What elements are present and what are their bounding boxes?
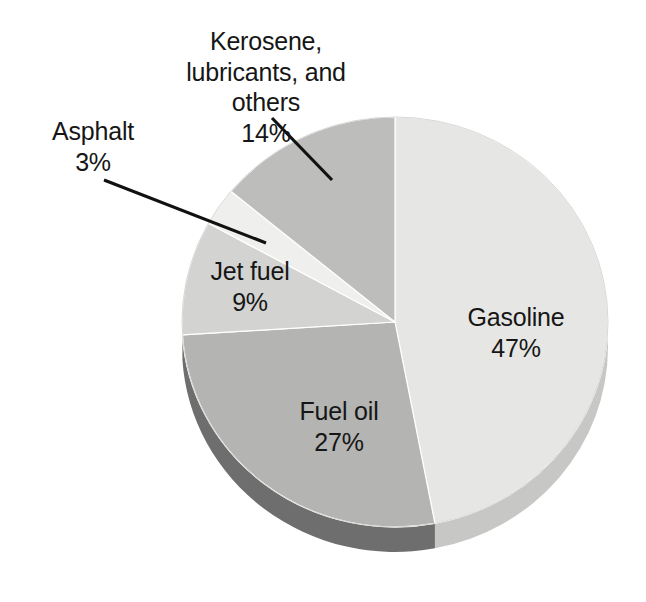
slice-label-gasoline-percent: 47% xyxy=(440,333,592,364)
slice-label-kerosene: Kerosene, lubricants, and others 14% xyxy=(152,26,380,148)
slice-label-asphalt-percent: 3% xyxy=(32,147,154,178)
slice-label-asphalt-name: Asphalt xyxy=(32,116,154,147)
slice-label-fuel-oil-name: Fuel oil xyxy=(263,396,415,427)
slice-label-gasoline: Gasoline 47% xyxy=(440,302,592,363)
slice-label-kerosene-percent: 14% xyxy=(152,118,380,149)
slice-label-fuel-oil-percent: 27% xyxy=(263,427,415,458)
slice-label-jet-fuel-percent: 9% xyxy=(180,287,320,318)
slice-label-asphalt: Asphalt 3% xyxy=(32,116,154,177)
slice-label-jet-fuel-name: Jet fuel xyxy=(180,256,320,287)
slice-label-gasoline-name: Gasoline xyxy=(440,302,592,333)
slice-label-fuel-oil: Fuel oil 27% xyxy=(263,396,415,457)
pie-chart-figure: Kerosene, lubricants, and others 14% Asp… xyxy=(0,0,646,602)
slice-label-jet-fuel: Jet fuel 9% xyxy=(180,256,320,317)
slice-label-kerosene-name: Kerosene, lubricants, and others xyxy=(152,26,380,118)
